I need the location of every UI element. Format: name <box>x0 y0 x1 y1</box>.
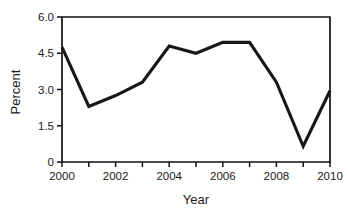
y-tick-label: 0 <box>48 156 54 168</box>
line-chart: 01.53.04.56.0 200020022004200620082010 P… <box>0 0 348 209</box>
y-axis-title: Percent <box>8 69 23 114</box>
x-axis-title: Year <box>183 192 210 207</box>
chart-canvas: 01.53.04.56.0 200020022004200620082010 P… <box>0 0 348 209</box>
y-tick-label: 6.0 <box>38 11 54 23</box>
x-tick-label: 2010 <box>317 170 343 182</box>
x-tick-label: 2008 <box>264 170 290 182</box>
y-tick-label: 3.0 <box>38 84 54 96</box>
x-tick-label: 2006 <box>210 170 236 182</box>
x-tick-label: 2004 <box>156 170 182 182</box>
y-tick-label: 4.5 <box>38 47 54 59</box>
x-tick-label: 2000 <box>49 170 75 182</box>
y-tick-label: 1.5 <box>38 120 54 132</box>
x-tick-label: 2002 <box>103 170 129 182</box>
